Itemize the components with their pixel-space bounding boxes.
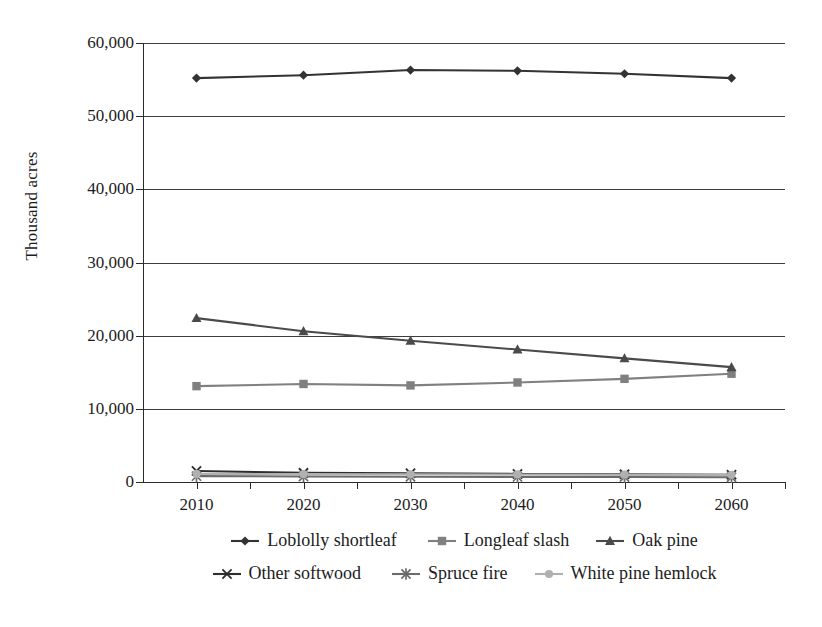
series-plot <box>143 43 785 482</box>
x-tick-mark-minor <box>464 482 465 489</box>
legend-marker-asterisk-icon <box>391 566 421 582</box>
data-point-diamond <box>406 65 415 74</box>
legend-marker-triangle-icon <box>595 533 625 549</box>
line-chart-figure: Thousand acres 010,00020,00030,00040,000… <box>0 0 822 627</box>
legend-label: Other softwood <box>249 563 361 584</box>
data-point-diamond <box>513 66 522 75</box>
data-point-circle <box>299 470 307 478</box>
x-tick-mark-minor <box>250 482 251 489</box>
x-tick-label: 2040 <box>501 495 535 515</box>
x-tick-mark-minor <box>678 482 679 489</box>
y-tick-label: 40,000 <box>87 179 134 199</box>
series-line <box>197 318 732 367</box>
y-tick-mark <box>136 263 143 264</box>
legend-marker-circle-icon <box>534 566 564 582</box>
legend-item-other-softwood[interactable]: Other softwood <box>212 563 361 584</box>
legend-row: Loblolly shortleafLongleaf slashOak pine <box>143 524 785 557</box>
series-line <box>197 476 732 477</box>
series-line <box>197 374 732 386</box>
y-tick-label: 0 <box>126 472 135 492</box>
y-tick-label: 50,000 <box>87 106 134 126</box>
legend-label: Oak pine <box>632 530 697 551</box>
x-tick-mark-minor <box>357 482 358 489</box>
x-tick-mark <box>304 482 305 489</box>
y-tick-label: 20,000 <box>87 326 134 346</box>
x-tick-label: 2030 <box>394 495 428 515</box>
legend-item-longleaf-slash[interactable]: Longleaf slash <box>427 530 569 551</box>
legend-item-loblolly-shortleaf[interactable]: Loblolly shortleaf <box>230 530 396 551</box>
data-point-diamond <box>727 74 736 83</box>
legend-marker-diamond-icon <box>230 533 260 549</box>
data-point-square <box>192 382 200 390</box>
series-longleaf-slash <box>192 370 735 391</box>
y-tick-mark <box>136 116 143 117</box>
data-point-circle <box>544 569 552 577</box>
legend-marker-square-icon <box>427 533 457 549</box>
y-tick-mark <box>136 189 143 190</box>
chart-legend: Loblolly shortleafLongleaf slashOak pine… <box>143 524 785 590</box>
plot-area: 010,00020,00030,00040,00050,00060,000 20… <box>143 43 785 482</box>
data-point-circle <box>192 470 200 478</box>
x-tick-mark-minor <box>785 482 786 489</box>
x-tick-mark <box>411 482 412 489</box>
data-point-square <box>406 381 414 389</box>
data-point-circle <box>513 470 521 478</box>
y-tick-label: 60,000 <box>87 33 134 53</box>
data-point-square <box>620 375 628 383</box>
data-point-square <box>299 380 307 388</box>
x-tick-mark-minor <box>571 482 572 489</box>
data-point-diamond <box>192 74 201 83</box>
x-tick-label: 2050 <box>608 495 642 515</box>
legend-item-white-pine-hemlock[interactable]: White pine hemlock <box>534 563 717 584</box>
data-point-diamond <box>620 69 629 78</box>
data-point-circle <box>406 470 414 478</box>
y-tick-label: 10,000 <box>87 399 134 419</box>
legend-label: Spruce fire <box>428 563 507 584</box>
data-point-circle <box>620 471 628 479</box>
x-tick-mark <box>625 482 626 489</box>
y-tick-mark <box>136 336 143 337</box>
legend-item-oak-pine[interactable]: Oak pine <box>595 530 697 551</box>
y-tick-mark <box>136 43 143 44</box>
x-tick-mark <box>732 482 733 489</box>
data-point-diamond <box>299 71 308 80</box>
y-tick-label: 30,000 <box>87 253 134 273</box>
y-tick-mark <box>136 409 143 410</box>
data-point-square <box>513 378 521 386</box>
series-line <box>197 474 732 475</box>
data-point-circle <box>727 471 735 479</box>
legend-item-spruce-fire[interactable]: Spruce fire <box>391 563 507 584</box>
legend-marker-x-icon <box>212 566 242 582</box>
series-loblolly-shortleaf <box>192 65 736 82</box>
series-oak-pine <box>192 313 737 371</box>
x-tick-mark <box>197 482 198 489</box>
x-tick-label: 2020 <box>287 495 321 515</box>
y-axis-title: Thousand acres <box>22 126 42 286</box>
y-tick-mark <box>136 482 143 483</box>
legend-label: Loblolly shortleaf <box>267 530 396 551</box>
legend-label: Longleaf slash <box>464 530 569 551</box>
x-tick-label: 2060 <box>715 495 749 515</box>
data-point-square <box>438 536 446 544</box>
legend-label: White pine hemlock <box>571 563 717 584</box>
x-tick-mark <box>518 482 519 489</box>
legend-row: Other softwoodSpruce fireWhite pine heml… <box>143 557 785 590</box>
x-tick-label: 2010 <box>180 495 214 515</box>
series-line <box>197 70 732 78</box>
data-point-diamond <box>241 536 250 545</box>
